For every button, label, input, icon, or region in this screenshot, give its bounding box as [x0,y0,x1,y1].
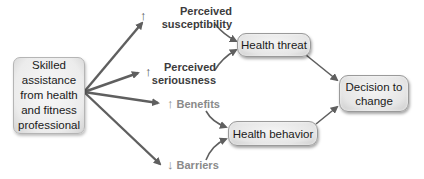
source-box-skilled-assistance: Skilled assistance from health and fitne… [13,57,85,134]
arrow-behavior-to-decision [316,107,337,124]
node-health-threat: Health threat [237,33,311,57]
arrow-seriousness-to-threat [215,50,236,70]
up-arrow-icon-susceptibility: ↑ [140,8,147,23]
node-decision-to-change: Decision to change [339,75,409,112]
node-health-behavior: Health behavior [228,121,318,146]
up-arrow-icon-benefits: ↑ [167,96,174,111]
label-barriers: ↓ Barriers [167,158,219,172]
label-benefits: ↑ Benefits [167,97,220,111]
arrow-barriers-to-behavior [206,139,226,160]
label-perceived-seriousness: Perceived seriousness [150,61,216,87]
source-text: Skilled assistance from health and fitne… [14,58,84,133]
arrow-benefits-to-behavior [206,111,226,127]
arrow-threat-to-decision [306,55,337,80]
down-arrow-icon-barriers: ↓ [167,157,174,172]
label-perceived-susceptibility: Perceived susceptibility [150,5,232,31]
